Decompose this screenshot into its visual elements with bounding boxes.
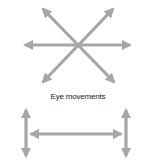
eye-movements-diagram: [0, 0, 146, 168]
diagram-caption: Eye movements: [0, 92, 146, 101]
